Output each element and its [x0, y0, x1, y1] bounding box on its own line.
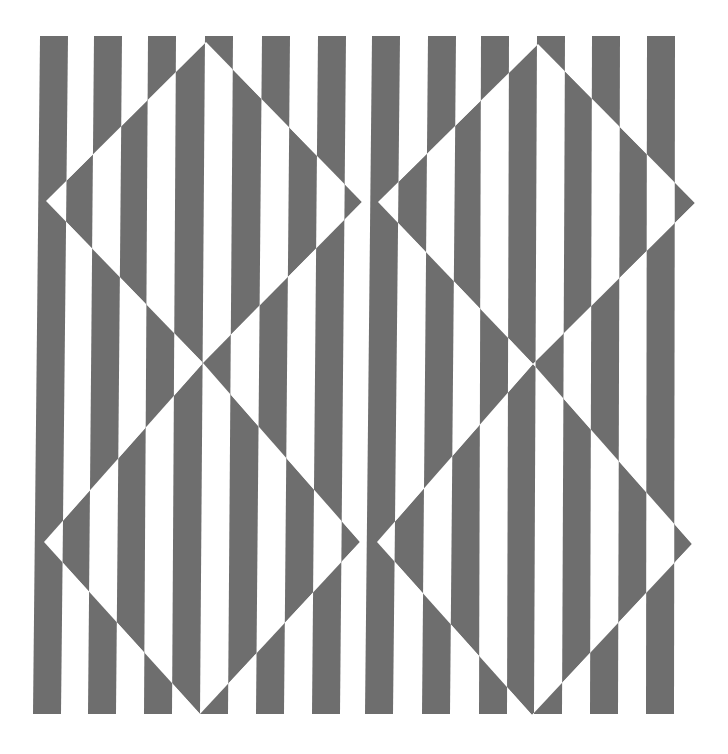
op-art-canvas: [0, 0, 728, 754]
stripe: [33, 36, 68, 714]
stripe: [312, 36, 346, 714]
stripe: [646, 36, 675, 714]
stripe: [365, 36, 400, 714]
